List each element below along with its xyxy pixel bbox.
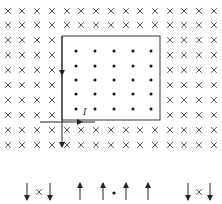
- field-cross-icon: [78, 142, 84, 148]
- field-cross-icon: [49, 112, 55, 118]
- field-cross-icon: [167, 22, 173, 28]
- field-cross-icon: [19, 37, 25, 43]
- field-dot-icon: [132, 108, 135, 111]
- field-cross-icon: [34, 52, 40, 58]
- option-c-dot-icon: [112, 191, 115, 194]
- field-cross-icon: [137, 22, 143, 28]
- field-dot-icon: [75, 50, 78, 53]
- field-cross-icon: [64, 22, 70, 28]
- field-cross-icon: [34, 82, 40, 88]
- field-cross-icon: [181, 142, 187, 148]
- field-cross-icon: [19, 22, 25, 28]
- field-dot-icon: [94, 50, 97, 53]
- field-dot-icon: [94, 93, 97, 96]
- field-dot-icon: [113, 108, 116, 111]
- field-cross-icon: [167, 82, 173, 88]
- field-cross-icon: [167, 67, 173, 73]
- field-cross-icon: [181, 52, 187, 58]
- field-cross-icon: [19, 112, 25, 118]
- physics-diagram: I: [0, 0, 222, 204]
- field-cross-icon: [5, 112, 11, 118]
- field-cross-icon: [49, 37, 55, 43]
- field-cross-icon: [167, 52, 173, 58]
- field-dot-icon: [75, 93, 78, 96]
- current-label: I: [83, 107, 87, 117]
- field-cross-icon: [152, 142, 158, 148]
- field-cross-icon: [19, 127, 25, 133]
- field-cross-icon: [78, 22, 84, 28]
- field-cross-icon: [49, 8, 55, 14]
- field-cross-icon: [78, 8, 84, 14]
- field-dot-icon: [113, 79, 116, 82]
- field-cross-icon: [181, 97, 187, 103]
- field-cross-icon: [108, 142, 114, 148]
- field-cross-icon: [181, 8, 187, 14]
- field-cross-icon: [34, 142, 40, 148]
- field-cross-icon: [181, 67, 187, 73]
- field-cross-icon: [167, 142, 173, 148]
- field-dot-icon: [94, 108, 97, 111]
- field-cross-icon: [181, 127, 187, 133]
- field-cross-icon: [19, 8, 25, 14]
- field-dot-icon: [94, 79, 97, 82]
- field-cross-icon: [181, 112, 187, 118]
- field-dot-icon: [113, 65, 116, 68]
- field-cross-icon: [196, 52, 202, 58]
- field-cross-icon: [49, 22, 55, 28]
- field-dot-icon: [113, 50, 116, 53]
- field-cross-icon: [211, 52, 217, 58]
- field-cross-icon: [137, 142, 143, 148]
- field-cross-icon: [137, 8, 143, 14]
- field-cross-icon: [34, 22, 40, 28]
- field-cross-icon: [93, 142, 99, 148]
- field-cross-icon: [64, 142, 70, 148]
- field-cross-icon: [5, 52, 11, 58]
- field-cross-icon: [181, 82, 187, 88]
- field-cross-icon: [19, 52, 25, 58]
- field-cross-icon: [5, 37, 11, 43]
- option-d-cross-icon: [196, 189, 202, 195]
- field-dot-icon: [150, 108, 153, 111]
- field-cross-icon: [196, 67, 202, 73]
- field-cross-icon: [5, 97, 11, 103]
- field-cross-icon: [137, 127, 143, 133]
- field-dot-icon: [132, 50, 135, 53]
- field-cross-icon: [211, 37, 217, 43]
- field-cross-icon: [34, 97, 40, 103]
- field-cross-icon: [5, 67, 11, 73]
- field-cross-icon: [152, 22, 158, 28]
- field-cross-icon: [49, 127, 55, 133]
- field-cross-icon: [196, 97, 202, 103]
- field-cross-icon: [181, 22, 187, 28]
- field-cross-icon: [49, 52, 55, 58]
- field-dot-icon: [150, 65, 153, 68]
- field-cross-icon: [123, 142, 129, 148]
- field-cross-icon: [108, 8, 114, 14]
- field-cross-icon: [34, 127, 40, 133]
- field-cross-icon: [5, 127, 11, 133]
- field-cross-icon: [78, 127, 84, 133]
- field-cross-icon: [152, 127, 158, 133]
- field-cross-icon: [123, 8, 129, 14]
- field-cross-icon: [49, 142, 55, 148]
- field-cross-icon: [49, 67, 55, 73]
- field-cross-icon: [123, 127, 129, 133]
- field-cross-icon: [167, 112, 173, 118]
- field-cross-icon: [211, 127, 217, 133]
- field-cross-icon: [152, 8, 158, 14]
- field-cross-icon: [34, 8, 40, 14]
- field-cross-icon: [19, 67, 25, 73]
- option-a-cross-icon: [36, 189, 42, 195]
- field-dot-icon: [150, 79, 153, 82]
- field-cross-icon: [5, 82, 11, 88]
- field-dot-icon: [132, 65, 135, 68]
- field-dot-icon: [132, 93, 135, 96]
- field-cross-icon: [93, 127, 99, 133]
- field-dot-icon: [75, 65, 78, 68]
- field-cross-icon: [19, 82, 25, 88]
- field-cross-icon: [93, 8, 99, 14]
- field-cross-icon: [19, 142, 25, 148]
- field-cross-icon: [196, 127, 202, 133]
- field-cross-icon: [211, 142, 217, 148]
- field-cross-icon: [211, 82, 217, 88]
